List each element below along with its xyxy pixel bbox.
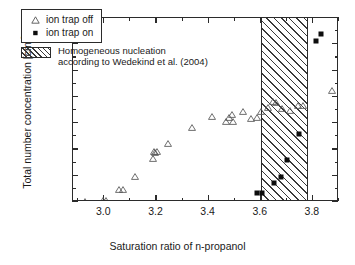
band-legend-line2: according to Wedekind et al. (2004): [58, 56, 208, 67]
x-tick-label: 3.0: [96, 205, 111, 217]
band-legend-line1: Homogeneous nucleation: [58, 45, 166, 56]
data-point-ion-trap-on: [318, 32, 323, 37]
legend-label-ion-trap-off: ion trap off: [44, 14, 93, 25]
open-triangle-icon: [27, 16, 44, 24]
data-point-ion-trap-on: [259, 190, 264, 195]
data-point-ion-trap-on: [313, 38, 318, 43]
x-minor-tick: [338, 198, 339, 202]
band-legend: Homogeneous nucleation according to Wede…: [21, 46, 208, 67]
x-minor-tick-top: [338, 17, 339, 21]
x-tick-label: 3.4: [200, 205, 215, 217]
data-point-ion-trap-on: [284, 157, 289, 162]
x-tick-label: 3.2: [148, 205, 163, 217]
y-major-tick-right: [332, 201, 338, 202]
data-point-ion-trap-on: [297, 131, 302, 136]
legend-label-ion-trap-on: ion trap on: [44, 27, 93, 38]
y-major-tick: [72, 201, 78, 202]
band-legend-text: Homogeneous nucleation according to Wede…: [51, 46, 208, 67]
data-point-ion-trap-on: [279, 174, 284, 179]
filled-square-icon: [27, 29, 44, 37]
scatter-chart-figure: Total number concentration [cm-3] Satura…: [0, 0, 355, 265]
x-tick-label: 3.6: [252, 205, 267, 217]
x-axis-title: Saturation ratio of n-propanol: [0, 240, 355, 252]
legend-row-ion-trap-on: ion trap on: [27, 26, 93, 39]
data-point-ion-trap-on: [272, 180, 277, 185]
legend-row-ion-trap-off: ion trap off: [27, 13, 93, 26]
marker-legend: ion trap off ion trap on: [21, 9, 102, 43]
x-tick-label: 3.8: [305, 205, 320, 217]
hatch-swatch-icon: [21, 47, 51, 58]
